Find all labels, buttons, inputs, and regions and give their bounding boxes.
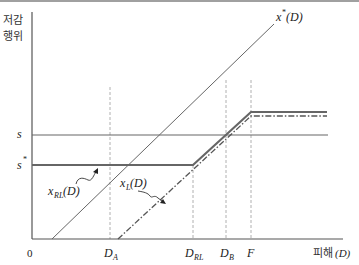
x-RL-curve — [32, 112, 327, 165]
x-tick-DRL: D — [184, 246, 194, 260]
x-L-label-arg: (D) — [130, 176, 147, 190]
x-star-label-arg: (D) — [286, 10, 303, 24]
x-L-label: x — [119, 176, 126, 190]
y-axis-label-line1: 저감 — [3, 14, 23, 27]
x-star-curve — [52, 24, 274, 239]
x-L-pointer-arrow — [138, 191, 162, 201]
x-axis-label: 피해 — [313, 246, 333, 260]
y-tick-s: s — [17, 127, 22, 141]
origin-label: 0 — [27, 247, 33, 259]
y-axis-label-line2: 행위 — [3, 30, 23, 43]
x-star-label: x — [275, 10, 282, 24]
x-axis-label-var: (D) — [335, 247, 351, 260]
y-tick-s-star: s — [17, 158, 22, 172]
x-RL-label-arg: (D) — [63, 184, 80, 198]
x-RL-pointer-arrow — [76, 172, 96, 184]
x-tick-F: F — [246, 246, 255, 260]
x-tick-DB: D — [219, 246, 229, 260]
diagram-canvas: 저감 행위 s s * 0 D A D RL D B F 피해 (D) x * … — [0, 0, 359, 265]
x-RL-label: x — [47, 184, 54, 198]
abatement-diagram: 저감 행위 s s * 0 D A D RL D B F 피해 (D) x * … — [0, 0, 359, 265]
x-tick-DA-sub: A — [112, 253, 118, 262]
y-tick-s-star-sup: * — [23, 155, 27, 164]
x-tick-DA: D — [103, 246, 113, 260]
x-tick-DRL-sub: RL — [193, 253, 204, 262]
x-tick-DB-sub: B — [229, 253, 234, 262]
